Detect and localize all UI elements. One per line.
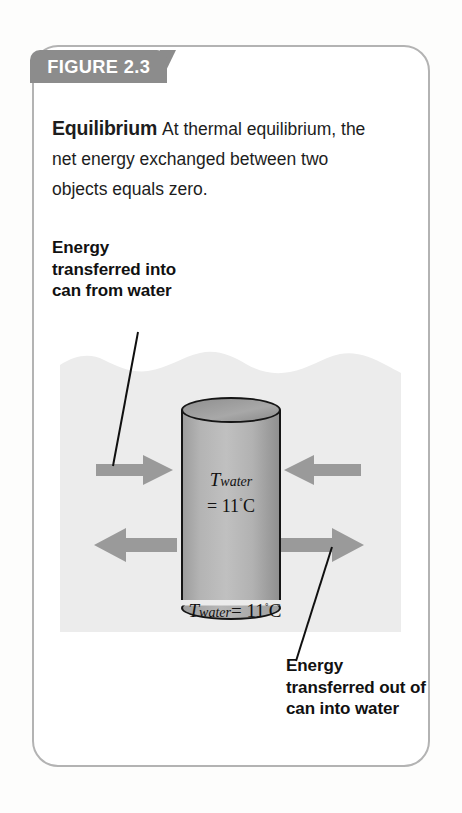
temperature-subscript: water <box>220 474 252 489</box>
figure-caption: EquilibriumAt thermal equilibrium, the n… <box>52 113 388 204</box>
arrow-energy-out-left <box>93 526 177 564</box>
can-temperature-symbol-line: Twater <box>181 469 281 491</box>
figure-page: FIGURE 2.3 EquilibriumAt thermal equilib… <box>0 0 462 813</box>
temperature-unit: C <box>243 496 255 516</box>
soda-can: Twater = 11˚C <box>181 397 281 609</box>
can-temperature-value-line: = 11˚C <box>181 496 281 517</box>
can-top-rim <box>181 397 281 423</box>
arrow-energy-in-right <box>283 453 361 487</box>
below-temperature-subscript: water <box>199 605 231 620</box>
below-temperature-unit: C <box>269 600 282 621</box>
temperature-value: = 11 <box>207 496 239 516</box>
below-temperature-symbol: T <box>189 600 200 621</box>
below-temperature-value: = 11 <box>231 600 265 621</box>
leader-line-out-of-can <box>290 545 338 665</box>
leader-line-into-can <box>108 330 148 470</box>
callout-energy-into-can: Energy transferred into can from water <box>52 237 202 302</box>
caption-lead-term: Equilibrium <box>52 117 157 139</box>
figure-tab: FIGURE 2.3 <box>30 50 167 83</box>
callout-energy-out-of-can: Energy transferred out of can into water <box>286 655 436 720</box>
temperature-symbol: T <box>210 469 221 490</box>
figure-tab-label: FIGURE 2.3 <box>47 56 150 78</box>
can-temperature-label: Twater = 11˚C <box>181 469 281 517</box>
